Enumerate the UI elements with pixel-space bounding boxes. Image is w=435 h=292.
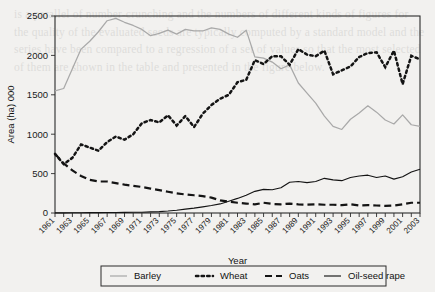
x-tick-label: 1985 <box>246 216 266 236</box>
x-tick-label: 1979 <box>194 216 214 236</box>
x-tick-label: 1999 <box>367 216 387 236</box>
x-tick-label: 1989 <box>281 216 301 236</box>
y-tick-label: 500 <box>32 168 48 179</box>
series-line-wheat <box>55 49 420 164</box>
x-tick-label: 1971 <box>124 216 144 236</box>
x-tick-label: 1975 <box>159 216 179 236</box>
x-tick-label: 1973 <box>141 216 161 236</box>
x-tick-label: 1981 <box>211 216 231 236</box>
series-line-barley <box>55 18 420 129</box>
x-tick-label: 1995 <box>333 216 353 236</box>
y-tick-label: 0 <box>43 207 48 218</box>
x-tick-label: 2003 <box>402 216 422 236</box>
x-axis-title: Year <box>228 255 247 266</box>
x-tick-label: 1987 <box>263 216 283 236</box>
x-tick-label: 1969 <box>107 216 127 236</box>
y-axis-title: Area (ha) 000 <box>5 85 16 143</box>
y-tick-label: 1500 <box>27 89 48 100</box>
legend-label-wheat: Wheat <box>220 270 248 281</box>
legend-label-oil-seed-rape: Oil-seed rape <box>348 270 405 281</box>
x-tick-label: 1977 <box>176 216 196 236</box>
x-tick-label: 2001 <box>385 216 405 236</box>
crop-area-line-chart: 0500100015002000250019611963196519671969… <box>0 0 435 292</box>
y-tick-label: 2000 <box>27 50 48 61</box>
legend-label-oats: Oats <box>289 270 309 281</box>
x-tick-label: 1963 <box>55 216 75 236</box>
chart-container: 0500100015002000250019611963196519671969… <box>0 0 435 292</box>
x-tick-label: 1997 <box>350 216 370 236</box>
legend-label-barley: Barley <box>134 270 161 281</box>
x-tick-label: 1993 <box>315 216 335 236</box>
x-tick-label: 1983 <box>228 216 248 236</box>
y-tick-label: 2500 <box>27 10 48 21</box>
x-tick-label: 1991 <box>298 216 318 236</box>
x-tick-label: 1961 <box>37 216 57 236</box>
x-tick-label: 1967 <box>89 216 109 236</box>
y-tick-label: 1000 <box>27 129 48 140</box>
x-tick-label: 1965 <box>72 216 92 236</box>
plot-border <box>55 16 420 213</box>
